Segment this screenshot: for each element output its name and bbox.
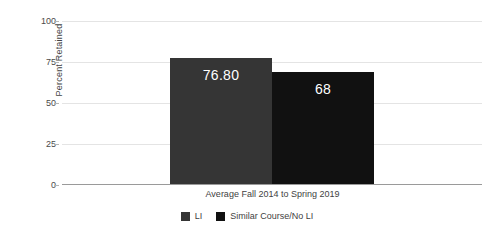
x-axis-line	[62, 184, 482, 185]
plot-area: 76.80 68	[62, 21, 482, 185]
y-axis-tick-marks	[0, 21, 62, 185]
legend-item-similar-course-no-li[interactable]: Similar Course/No LI	[216, 211, 313, 221]
legend-swatch-icon-li	[181, 212, 190, 221]
tick-mark-25	[54, 144, 59, 145]
bar-similar-course-no-li[interactable]: 68	[272, 72, 374, 184]
tick-mark-100	[54, 21, 59, 22]
legend-swatch-icon-similar-course-no-li	[216, 212, 225, 221]
legend-item-li[interactable]: LI	[181, 211, 203, 221]
chart-legend: LI Similar Course/No LI	[0, 211, 494, 221]
bar-group: 76.80 68	[62, 21, 482, 185]
legend-label-li: LI	[195, 211, 203, 221]
tick-mark-50	[54, 103, 59, 104]
tick-mark-75	[54, 62, 59, 63]
bar-li[interactable]: 76.80	[170, 58, 272, 184]
tick-mark-0	[54, 185, 59, 186]
legend-label-similar-course-no-li: Similar Course/No LI	[230, 211, 313, 221]
bar-value-li: 76.80	[170, 67, 272, 83]
bar-chart: Percent Retained 0 25 50 75 100 76.80 68	[0, 0, 494, 241]
x-axis-label: Average Fall 2014 to Spring 2019	[140, 189, 405, 199]
bar-value-similar-course-no-li: 68	[272, 81, 374, 97]
